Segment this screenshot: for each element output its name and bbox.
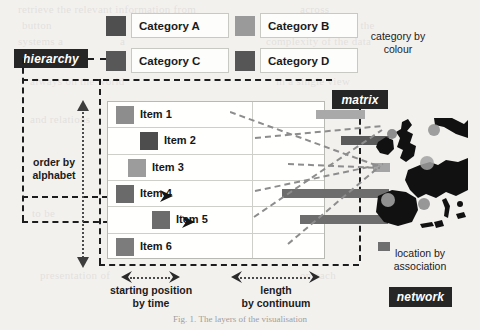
starting-position-line-2: by time	[108, 297, 194, 310]
category-label-a: Category A	[139, 20, 200, 32]
order-axis-line	[82, 109, 84, 265]
item-label: Item 1	[140, 108, 172, 120]
ghost-text: in a single view	[276, 74, 350, 89]
order-axis-arrow-down	[76, 256, 90, 268]
length-arrow-right	[308, 271, 320, 283]
map-location-dots	[372, 118, 468, 240]
ghost-text: to be	[32, 206, 55, 221]
tag-matrix-label: matrix	[341, 93, 378, 107]
order-axis-arrow-up	[76, 100, 90, 112]
matrix-row[interactable]: Item 5	[108, 207, 324, 233]
timeline-bar[interactable]	[316, 110, 365, 119]
arrowhead-item-5	[180, 216, 196, 228]
category-swatch-d	[235, 51, 255, 71]
item-swatch	[116, 238, 134, 256]
category-label-b: Category B	[268, 20, 329, 32]
category-box-b[interactable]: Category B	[260, 13, 358, 38]
hierarchy-connector	[88, 58, 106, 60]
matrix-row[interactable]: Item 4	[108, 181, 324, 207]
tag-hierarchy[interactable]: hierarchy	[14, 49, 88, 68]
starting-position-measure-line	[130, 277, 170, 279]
length-measure-line	[240, 277, 310, 279]
matrix-scope-left	[99, 79, 101, 264]
ghost-text: a	[120, 34, 125, 49]
category-box-c[interactable]: Category C	[131, 48, 229, 73]
location-line-1: location by	[366, 247, 474, 260]
category-box-d[interactable]: Category D	[260, 48, 358, 73]
item-swatch	[140, 132, 158, 150]
tag-matrix[interactable]: matrix	[332, 90, 388, 109]
note-line-1: category by	[348, 30, 448, 43]
ghost-text: presentation of	[40, 268, 110, 283]
item-swatch	[116, 106, 134, 124]
category-swatch-c	[106, 51, 126, 71]
ghost-text: button	[22, 18, 52, 33]
item-label: Item 2	[164, 134, 196, 146]
hierarchy-to-matrix-line	[22, 79, 332, 81]
category-box-a[interactable]: Category A	[131, 13, 229, 38]
item-label: Item 6	[140, 240, 172, 252]
location-line-2: association	[366, 260, 474, 273]
arrowhead-item-4	[158, 190, 174, 202]
tag-network-label: network	[397, 290, 444, 304]
category-by-colour-note: category by colour	[348, 30, 448, 55]
ghost-text: systems a	[18, 34, 63, 49]
starting-position-arrow-right	[168, 271, 180, 283]
category-swatch-a	[106, 16, 126, 36]
item-swatch	[128, 159, 146, 177]
tag-network[interactable]: network	[389, 287, 452, 307]
category-label-d: Category D	[268, 55, 329, 67]
figure-caption: Fig. 1. The layers of the visualisation	[0, 314, 480, 324]
matrix-row[interactable]: Item 6	[108, 234, 324, 260]
matrix-scope-bottom	[99, 264, 359, 266]
length-arrow-left	[231, 271, 243, 283]
order-by-line-1: order by	[26, 156, 82, 169]
category-swatch-b	[235, 16, 255, 36]
europe-map[interactable]	[372, 118, 468, 240]
tag-hierarchy-label: hierarchy	[23, 52, 79, 66]
item-swatch	[116, 185, 134, 203]
category-label-c: Category C	[139, 55, 200, 67]
order-by-line-2: alphabet	[26, 169, 82, 182]
ghost-text: always on the world	[30, 74, 125, 89]
length-line-2: by continuum	[228, 297, 324, 310]
order-by-alphabet-label: order by alphabet	[26, 156, 82, 181]
location-by-association-label: location by association	[366, 247, 474, 272]
matrix-row[interactable]: Item 2	[108, 128, 324, 154]
item-swatch	[152, 211, 170, 229]
matrix-row[interactable]: Item 1	[108, 102, 324, 128]
matrix-tag-stem	[359, 109, 361, 261]
length-label: length by continuum	[228, 284, 324, 309]
starting-position-label: starting position by time	[108, 284, 194, 309]
starting-position-line-1: starting position	[108, 284, 194, 297]
length-line-1: length	[228, 284, 324, 297]
matrix-row[interactable]: Item 3	[108, 155, 324, 181]
starting-position-arrow-left	[121, 271, 133, 283]
note-line-2: colour	[348, 43, 448, 56]
matrix-table[interactable]: Item 1Item 2Item 3Item 4Item 5Item 6	[107, 101, 325, 259]
item-label: Item 3	[152, 161, 184, 173]
